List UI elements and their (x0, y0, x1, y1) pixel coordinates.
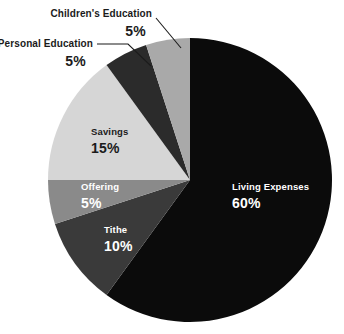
slice-label-savings-value: 15% (91, 140, 120, 156)
slice-label-childrens-education-name: Children's Education (50, 8, 152, 19)
slice-label-living-expenses-value: 60% (232, 195, 261, 211)
slice-label-offering-value: 5% (81, 195, 102, 211)
pie-chart-svg: Living Expenses 60% Tithe 10% Offering 5… (0, 0, 344, 334)
slice-label-living-expenses-name: Living Expenses (232, 181, 309, 192)
slice-label-personal-education: Personal Education 5% (0, 38, 93, 69)
slice-label-offering-name: Offering (81, 181, 119, 192)
pie-slices (48, 38, 332, 322)
slice-label-savings-name: Savings (91, 126, 128, 137)
pie-chart: Living Expenses 60% Tithe 10% Offering 5… (0, 0, 344, 334)
slice-label-tithe-name: Tithe (104, 224, 127, 235)
slice-label-tithe-value: 10% (104, 238, 133, 254)
slice-label-childrens-education: Children's Education 5% (50, 8, 152, 39)
slice-label-personal-education-value: 5% (65, 53, 86, 69)
slice-label-personal-education-name: Personal Education (0, 38, 93, 49)
slice-label-childrens-education-value: 5% (125, 23, 146, 39)
